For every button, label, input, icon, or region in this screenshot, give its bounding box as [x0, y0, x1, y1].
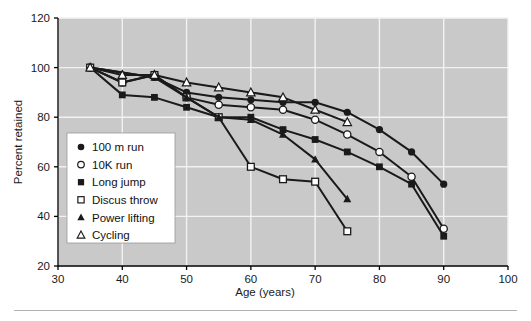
marker-filled-square: [183, 104, 190, 111]
marker-open-square: [280, 176, 287, 183]
marker-filled-square: [408, 181, 415, 188]
marker-filled-circle: [344, 109, 351, 116]
y-axis-title: Percent retained: [12, 100, 24, 184]
y-tick-label: 100: [31, 62, 50, 74]
marker-filled-circle: [247, 96, 254, 103]
footer-divider-rule: [14, 310, 517, 311]
marker-open-square: [247, 163, 254, 170]
legend-label-long-jump: Long jump: [92, 176, 146, 188]
x-tick-label: 40: [116, 273, 129, 285]
marker-filled-square: [312, 136, 319, 143]
legend-label-discus-throw: Discus throw: [92, 194, 159, 206]
retention-by-age-line-chart: 30405060708090100 20406080100120 100 m r…: [0, 0, 531, 321]
marker-filled-circle: [78, 144, 85, 151]
marker-open-circle: [408, 173, 415, 180]
legend-label-power-lifting: Power lifting: [92, 212, 155, 224]
marker-open-square: [78, 197, 84, 203]
marker-open-square: [312, 178, 319, 185]
marker-open-circle: [344, 131, 351, 138]
y-tick-label: 120: [31, 12, 50, 24]
marker-filled-square: [78, 179, 84, 185]
x-tick-label: 30: [52, 273, 65, 285]
y-tick-label: 20: [37, 260, 50, 272]
y-tick-labels: 20406080100120: [31, 12, 50, 272]
marker-open-square: [119, 79, 126, 86]
marker-open-circle: [376, 148, 383, 155]
marker-filled-square: [440, 233, 447, 240]
marker-filled-circle: [215, 94, 222, 101]
marker-filled-square: [376, 163, 383, 170]
legend-label-cycling: Cycling: [92, 229, 130, 241]
marker-open-circle: [312, 116, 319, 123]
y-tick-label: 80: [37, 111, 50, 123]
x-tick-labels: 30405060708090100: [52, 273, 518, 285]
x-tick-label: 70: [309, 273, 322, 285]
x-tick-label: 50: [180, 273, 193, 285]
marker-open-square: [344, 228, 351, 235]
marker-filled-circle: [376, 126, 383, 133]
y-tick-label: 40: [37, 210, 50, 222]
x-tick-label: 80: [373, 273, 386, 285]
marker-filled-circle: [440, 181, 447, 188]
x-tick-label: 90: [437, 273, 450, 285]
chart-legend: 100 m run10K runLong jumpDiscus throwPow…: [67, 133, 175, 243]
marker-open-circle: [279, 106, 286, 113]
figure-container: 30405060708090100 20406080100120 100 m r…: [0, 0, 531, 321]
marker-open-circle: [215, 101, 222, 108]
legend-label-100-m-run: 100 m run: [92, 141, 144, 153]
marker-filled-square: [119, 91, 126, 98]
marker-filled-square: [344, 149, 351, 156]
marker-filled-square: [151, 94, 158, 101]
marker-open-circle: [247, 104, 254, 111]
marker-open-circle: [78, 161, 85, 168]
x-axis-title: Age (years): [235, 286, 295, 298]
y-tick-label: 60: [37, 161, 50, 173]
legend-label-10k-run: 10K run: [92, 159, 132, 171]
marker-filled-circle: [408, 148, 415, 155]
x-tick-label: 60: [244, 273, 257, 285]
x-tick-label: 100: [498, 273, 517, 285]
